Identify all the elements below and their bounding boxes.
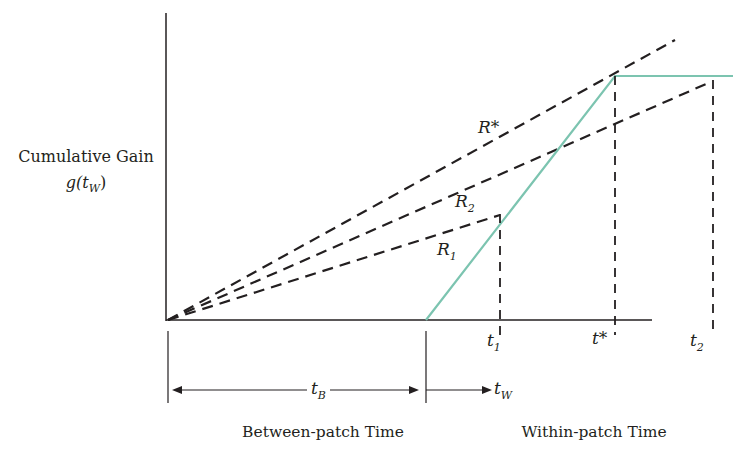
label-r1: R1 bbox=[436, 239, 457, 263]
label-t-star: t* bbox=[592, 328, 608, 348]
label-tb: tB bbox=[311, 378, 326, 402]
rate-line-r-star bbox=[168, 40, 675, 320]
between-patch-label: Between-patch Time bbox=[242, 423, 404, 441]
arrowhead-right-icon bbox=[409, 386, 419, 394]
y-axis-function: g(tW) bbox=[66, 173, 106, 195]
gain-curve bbox=[426, 76, 733, 320]
y-axis-label: Cumulative Gain bbox=[18, 147, 154, 166]
label-tw: tW bbox=[494, 378, 514, 402]
within-patch-label: Within-patch Time bbox=[521, 423, 666, 441]
label-t2: t2 bbox=[690, 330, 704, 354]
label-r2: R2 bbox=[454, 191, 475, 215]
rate-line-r2 bbox=[168, 84, 706, 320]
label-t1: t1 bbox=[487, 330, 501, 354]
mvt-diagram: Cumulative Gain g(tW) R* R2 R1 t1 t* t2 … bbox=[0, 0, 748, 455]
arrowhead-right-icon bbox=[482, 386, 492, 394]
label-r-star: R* bbox=[477, 117, 500, 137]
rate-line-r1 bbox=[168, 215, 500, 320]
arrowhead-left-icon bbox=[172, 386, 182, 394]
